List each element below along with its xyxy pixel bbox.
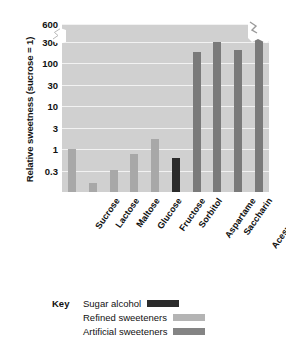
- legend-item: Refined sweeteners: [83, 310, 252, 324]
- bar: [213, 42, 221, 192]
- legend-item-label: Refined sweeteners: [83, 312, 167, 323]
- legend-swatch-refined: [173, 314, 205, 321]
- bar: [110, 170, 118, 192]
- bar: [234, 50, 242, 192]
- x-axis-tick-labels: SucroseLactoseMaltoseGlucoseFructoseSorb…: [62, 196, 269, 268]
- y-axis-break-right-icon: [248, 20, 278, 44]
- legend-item: Sugar alcohol: [83, 296, 252, 310]
- legend-title: Key: [52, 298, 69, 309]
- legend-swatch-artificial: [173, 328, 205, 335]
- legend: Key Sugar alcoholRefined sweetenersArtif…: [52, 296, 252, 338]
- y-tick-label: 0.3: [16, 166, 58, 177]
- legend-item-label: Sugar alcohol: [83, 298, 141, 309]
- bar: [130, 154, 138, 192]
- y-axis-tick-labels: 6003001003010310.3: [12, 24, 58, 192]
- gridline: [62, 24, 269, 25]
- sweetness-bar-chart: Relative sweetness (sucrose = 1) 6003001…: [0, 0, 286, 356]
- legend-item-label: Artificial sweeteners: [83, 326, 167, 337]
- x-tick-label: Sucralose: [283, 196, 286, 237]
- y-tick-label: 3: [16, 123, 58, 134]
- plot-area: [62, 24, 269, 192]
- bar: [89, 183, 97, 192]
- y-tick-label: 10: [16, 100, 58, 111]
- bar: [68, 149, 76, 192]
- bar: [193, 52, 201, 192]
- y-tick-label: 30: [16, 80, 58, 91]
- legend-item: Artificial sweeteners: [83, 324, 252, 338]
- gridline: [62, 42, 269, 43]
- legend-swatch-alcohol: [147, 300, 179, 307]
- y-tick-label: 100: [16, 57, 58, 68]
- bar: [151, 139, 159, 192]
- legend-items: Sugar alcoholRefined sweetenersArtificia…: [83, 296, 252, 338]
- y-axis-break-left-icon: [52, 28, 66, 44]
- bar: [255, 24, 263, 192]
- bar: [172, 158, 180, 192]
- y-tick-label: 1: [16, 143, 58, 154]
